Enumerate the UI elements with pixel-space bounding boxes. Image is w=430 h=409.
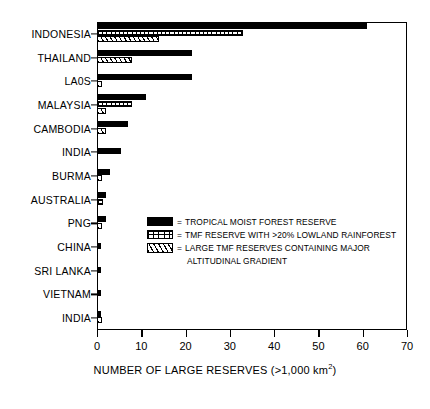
category-label: MALAYSIA	[38, 100, 91, 110]
bar-solid	[97, 23, 367, 29]
bar-solid	[97, 311, 101, 317]
bar-solid	[97, 74, 192, 80]
x-axis-tick-label: 40	[268, 340, 280, 352]
bar-hatch	[97, 57, 132, 63]
legend-equals-sign: =	[173, 243, 185, 253]
x-axis-tick-label: 30	[224, 340, 236, 352]
bar-solid	[97, 192, 106, 198]
x-axis-tick-label: 0	[94, 340, 100, 352]
legend-item: =TMF RESERVE WITH >20% LOWLAND RAINFORES…	[147, 229, 396, 240]
x-axis-title: NUMBER OF LARGE RESERVES (>1,000 km2)	[0, 362, 430, 376]
legend-label-continuation: ALTITUDINAL GRADIENT	[147, 256, 396, 267]
x-axis-tick	[141, 330, 142, 337]
legend-label: TROPICAL MOIST FOREST RESERVE	[185, 217, 337, 227]
bar-solid	[97, 94, 146, 100]
plot-area	[97, 22, 407, 330]
x-axis-tick-label: 20	[179, 340, 191, 352]
bar-solid	[97, 50, 192, 56]
bar-grid	[97, 30, 243, 36]
x-axis-tick	[407, 330, 408, 337]
x-axis-tick-label: 70	[401, 340, 413, 352]
category-label: AUSTRALIA	[31, 195, 91, 205]
bar-hatch	[97, 317, 102, 323]
bar-solid	[97, 243, 101, 249]
legend-equals-sign: =	[173, 217, 185, 227]
legend-item: =LARGE TMF RESERVES CONTAINING MAJOR	[147, 242, 396, 253]
x-axis-tick	[230, 330, 231, 337]
x-axis-tick-label: 60	[357, 340, 369, 352]
bar-solid	[97, 290, 101, 296]
category-label: PNG	[68, 218, 91, 228]
x-axis-tick	[274, 330, 275, 337]
bar-solid	[97, 169, 110, 175]
category-label: THAILAND	[37, 53, 91, 63]
x-axis-tick	[363, 330, 364, 337]
legend-label: LARGE TMF RESERVES CONTAINING MAJOR	[185, 243, 370, 253]
bar-hatch	[97, 223, 102, 229]
category-label: INDONESIA	[31, 29, 91, 39]
bar-hatch	[97, 175, 102, 181]
bar-grid	[97, 101, 132, 107]
legend-swatch-solid-icon	[147, 217, 173, 227]
x-axis-tick	[318, 330, 319, 337]
x-axis-title-main: NUMBER OF LARGE RESERVES (>1,000 km	[94, 364, 329, 376]
legend-equals-sign: =	[173, 230, 185, 240]
category-label: INDIA	[62, 313, 91, 323]
bar-hatch	[97, 81, 102, 87]
category-label: CAMBODIA	[33, 124, 91, 134]
bar-solid	[97, 148, 121, 154]
bar-chart: INDONESIATHAILANDLA0SMALAYSIACAMBODIAIND…	[0, 0, 430, 409]
x-axis-title-tail: )	[333, 364, 337, 376]
category-label: LA0S	[65, 76, 92, 86]
bar-hatch	[97, 108, 106, 114]
bar-solid	[97, 267, 101, 273]
x-axis-tick	[186, 330, 187, 337]
category-label: INDIA	[62, 147, 91, 157]
category-label: VIETNAM	[43, 289, 91, 299]
category-label: BURMA	[52, 171, 91, 181]
bar-solid	[97, 216, 106, 222]
legend: =TROPICAL MOIST FOREST RESERVE=TMF RESER…	[147, 216, 396, 269]
legend-swatch-grid-icon	[147, 230, 173, 240]
bar-hatch	[97, 36, 159, 42]
bar-hatch	[97, 128, 106, 134]
bar-grid	[97, 199, 103, 205]
x-axis-tick-label: 10	[135, 340, 147, 352]
legend-item: =TROPICAL MOIST FOREST RESERVE	[147, 216, 396, 227]
x-axis-tick	[97, 330, 98, 337]
legend-swatch-hatch-icon	[147, 243, 173, 253]
x-axis-tick-label: 50	[312, 340, 324, 352]
legend-label: TMF RESERVE WITH >20% LOWLAND RAINFOREST	[185, 230, 396, 240]
bar-solid	[97, 121, 128, 127]
category-label: CHINA	[57, 242, 91, 252]
category-label: SRI LANKA	[34, 266, 91, 276]
